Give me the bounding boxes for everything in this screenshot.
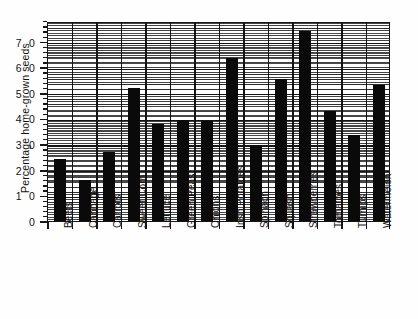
x-label-turnips: Turnips [357, 194, 368, 228]
y-tick-major [40, 67, 47, 69]
x-label-onions: Onions [210, 196, 221, 228]
x-label-squash: Squash [284, 193, 295, 228]
y-tick-major [40, 42, 47, 44]
y-tick-label: 2 0 [16, 165, 37, 177]
y-tick-major [40, 93, 47, 95]
y-tick-major [40, 221, 47, 223]
x-label-watermelon: Watermelon [382, 173, 393, 228]
y-tick-major [40, 144, 47, 146]
x-label-spinach: Spinach [259, 191, 270, 228]
x-axis-category-labels: BeetsCabbageCarrotsSweet CornLettuceGree… [47, 228, 390, 318]
y-tick-label: 7 0 [16, 37, 37, 49]
x-label-tomatoes: Tomatoes [333, 184, 344, 228]
x-label-sweet-corn: Sweet Corn [137, 175, 148, 228]
bar-chart-figure: Percentage home-grown seeds 01 02 03 04 … [0, 0, 418, 319]
y-axis-ticks: 01 02 03 04 05 06 07 0 [0, 0, 47, 319]
y-tick-label: 1 0 [16, 190, 37, 202]
y-tick-label: 5 0 [16, 88, 37, 100]
x-label-strawberries: Strawberries [308, 171, 319, 228]
x-label-beets: Beets [63, 202, 74, 228]
y-tick-major [40, 170, 47, 172]
x-label-green-peas: Green Peas [186, 174, 197, 228]
y-tick-label: 4 0 [16, 113, 37, 125]
y-tick-label: 3 0 [16, 139, 37, 151]
y-tick-major [40, 196, 47, 198]
x-label-carrots: Carrots [112, 195, 123, 228]
x-label-lettuce: Lettuce [161, 194, 172, 228]
y-tick-major [40, 119, 47, 121]
x-label-irish-potatoes: Irish Potatoes [235, 165, 246, 228]
x-label-cabbage: Cabbage [88, 187, 99, 228]
y-tick-label: 6 0 [16, 62, 37, 74]
y-tick-label: 0 [29, 216, 37, 228]
